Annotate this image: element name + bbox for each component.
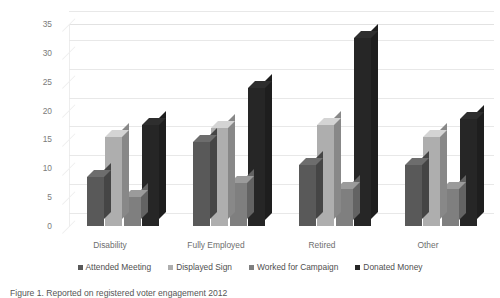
- bar-face-side: [371, 24, 378, 219]
- figure-caption: Figure 1. Reported on registered voter e…: [10, 288, 490, 298]
- bar-face-side: [334, 111, 341, 219]
- legend-item-worked-for-campaign[interactable]: Worked for Campaign: [249, 262, 338, 272]
- bar-face-side: [210, 128, 217, 219]
- bar-face-side: [440, 123, 447, 219]
- legend-label: Attended Meeting: [86, 262, 152, 272]
- y-axis-tick-5: 5: [47, 192, 52, 202]
- legend-swatch-icon: [168, 265, 173, 270]
- bar-group-disability: [87, 24, 160, 226]
- bar-face-side: [265, 74, 272, 220]
- bar-face-front: [87, 177, 104, 226]
- bar-attended-meeting-fully-employed: [193, 142, 210, 226]
- bar-face-front: [193, 142, 210, 226]
- x-axis-label-other: Other: [375, 240, 481, 250]
- x-axis-label-disability: Disability: [57, 240, 163, 250]
- y-axis-tick-10: 10: [43, 163, 52, 173]
- bar-face-side: [477, 105, 484, 219]
- chart-legend: Attended MeetingDisplayed SignWorked for…: [0, 262, 500, 272]
- bar-group-other: [405, 24, 478, 226]
- legend-label: Donated Money: [363, 262, 422, 272]
- bar-face-front: [299, 165, 316, 226]
- legend-swatch-icon: [355, 265, 360, 270]
- x-axis-category-labels: DisabilityFully EmployedRetiredOther: [57, 240, 494, 256]
- y-axis-tick-0: 0: [47, 221, 52, 231]
- legend-label: Worked for Campaign: [257, 262, 338, 272]
- bar-face-side: [122, 123, 129, 219]
- bar-attended-meeting-other: [405, 165, 422, 226]
- y-axis-tick-15: 15: [43, 134, 52, 144]
- legend-item-displayed-sign[interactable]: Displayed Sign: [168, 262, 232, 272]
- bars-layer: [57, 24, 494, 239]
- bar-group-fully-employed: [193, 24, 266, 226]
- bar-face-side: [228, 114, 235, 219]
- legend-label: Displayed Sign: [176, 262, 232, 272]
- y-axis-tick-20: 20: [43, 106, 52, 116]
- x-axis-label-fully-employed: Fully Employed: [163, 240, 269, 250]
- bar-group-retired: [299, 24, 372, 226]
- legend-swatch-icon: [78, 265, 83, 270]
- bar-attended-meeting-disability: [87, 177, 104, 226]
- legend-item-donated-money[interactable]: Donated Money: [355, 262, 422, 272]
- y-axis-tick-30: 30: [43, 48, 52, 58]
- y-axis-tick-labels: 35302520151050: [26, 24, 52, 239]
- y-axis-tick-35: 35: [43, 19, 52, 29]
- bar-attended-meeting-retired: [299, 165, 316, 226]
- legend-item-attended-meeting[interactable]: Attended Meeting: [78, 262, 152, 272]
- y-axis-tick-25: 25: [43, 77, 52, 87]
- legend-swatch-icon: [249, 265, 254, 270]
- x-axis-label-retired: Retired: [269, 240, 375, 250]
- gridline-35: [69, 11, 494, 12]
- plot-area: [57, 24, 494, 239]
- bar-face-front: [405, 165, 422, 226]
- bar-face-side: [159, 111, 166, 219]
